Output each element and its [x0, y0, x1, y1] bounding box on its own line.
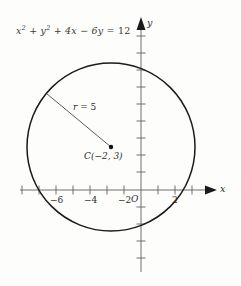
coordinate-plane [0, 0, 241, 286]
equation-exp2: 2 [46, 24, 50, 32]
center-label: C(−2, 3) [84, 152, 123, 161]
equation-plus2: + [54, 25, 62, 36]
equation-term3: 4x [65, 25, 77, 36]
y-axis-arrow-icon [137, 17, 146, 30]
equation-plus1: + [29, 25, 37, 36]
x-tick-label-neg6: −6 [50, 196, 63, 205]
equation-term4: 6y [92, 25, 104, 36]
circle-graph-figure: x2 + y2 + 4x − 6y = 12 r = 5 C(−2, 3) −6… [0, 0, 241, 286]
equation-equals: = [107, 25, 115, 36]
y-axis-label: y [147, 18, 152, 28]
x-axis-label: x [220, 184, 225, 194]
radius-symbol: r [73, 102, 77, 112]
radius-value: 5 [91, 102, 97, 112]
x-axis-arrow-icon [205, 186, 217, 195]
radius-label: r = 5 [73, 103, 96, 112]
equation-annotation: x2 + y2 + 4x − 6y = 12 [16, 26, 131, 36]
x-tick-label-neg4: −4 [84, 196, 97, 205]
equation-minus: − [80, 25, 88, 36]
equation-rhs: 12 [118, 25, 131, 36]
center-point-marker [109, 145, 113, 149]
x-tick-label-2: 2 [172, 196, 178, 205]
x-tick-label-neg2: −2 [118, 196, 131, 205]
origin-label: O [131, 195, 138, 204]
radius-equals: = [80, 102, 88, 112]
